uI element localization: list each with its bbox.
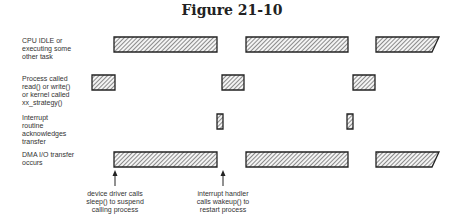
bar-dma-3 bbox=[376, 152, 439, 167]
bar-dma-2 bbox=[246, 152, 348, 167]
bar-interrupt-1 bbox=[217, 114, 223, 129]
bar-cpu-3 bbox=[376, 37, 439, 52]
timing-diagram bbox=[0, 0, 458, 220]
bar-cpu-2 bbox=[246, 37, 348, 52]
arrow-sleep-icon bbox=[113, 170, 118, 186]
bar-process-3 bbox=[353, 75, 375, 90]
bar-process-1 bbox=[92, 75, 115, 90]
bars-group bbox=[92, 37, 439, 167]
arrow-wakeup-icon bbox=[221, 170, 226, 186]
bar-process-2 bbox=[222, 75, 244, 90]
bar-dma-1 bbox=[114, 152, 217, 167]
bar-cpu-1 bbox=[114, 37, 217, 52]
bar-interrupt-2 bbox=[347, 114, 353, 129]
